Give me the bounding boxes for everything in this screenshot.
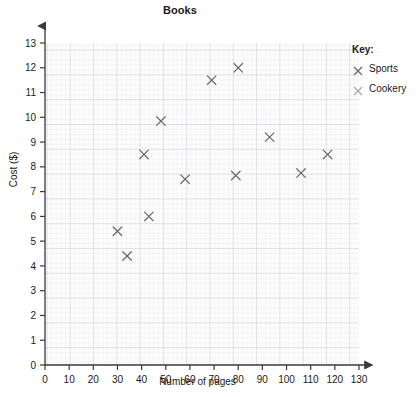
legend-item-cookery: Cookery (352, 82, 418, 95)
y-axis-ticks: 012345678910111213 (25, 38, 45, 371)
y-tick-label: 2 (30, 310, 36, 321)
y-tick-label: 1 (30, 335, 36, 346)
y-tick-label: 9 (30, 137, 36, 148)
y-tick-label: 12 (25, 62, 37, 73)
scatter-chart: Books 012345678910111213 (0, 0, 418, 397)
y-tick-label: 11 (26, 87, 37, 98)
x-marker-icon (352, 63, 364, 75)
x-tick-label: 130 (351, 374, 368, 385)
x-axis-title: Number of pages (45, 376, 350, 387)
y-tick-label: 5 (30, 236, 36, 247)
y-tick-label: 3 (30, 285, 36, 296)
y-tick-label: 6 (30, 211, 36, 222)
grid-background (45, 43, 359, 365)
y-tick-label: 7 (30, 186, 36, 197)
y-tick-label: 0 (30, 360, 36, 371)
legend: Key: Sports Cookery (352, 44, 418, 102)
legend-label-cookery: Cookery (369, 83, 406, 94)
y-tick-label: 10 (25, 112, 37, 123)
legend-label-sports: Sports (369, 63, 398, 74)
legend-title: Key: (352, 44, 418, 55)
y-axis-title: Cost ($) (8, 140, 19, 200)
x-marker-icon (352, 83, 364, 95)
y-tick-label: 4 (30, 261, 36, 272)
y-tick-label: 8 (30, 161, 36, 172)
y-tick-label: 13 (25, 38, 37, 49)
legend-item-sports: Sports (352, 62, 418, 75)
